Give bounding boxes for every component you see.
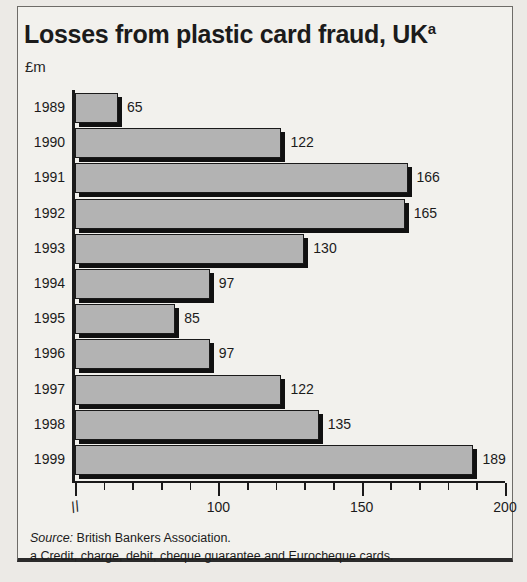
x-axis-minor-tick — [476, 483, 478, 490]
bar — [75, 199, 405, 229]
axis-break-icon: // — [68, 497, 82, 516]
x-axis-tick-label: 100 — [207, 499, 230, 515]
x-axis-minor-tick — [276, 483, 278, 490]
category-label: 1992 — [19, 205, 65, 221]
x-axis-minor-tick — [247, 483, 249, 490]
bar — [75, 234, 304, 264]
x-axis-major-tick — [362, 483, 364, 496]
x-axis-minor-tick — [132, 483, 134, 490]
x-axis-minor-tick — [161, 483, 163, 490]
category-label: 1993 — [19, 240, 65, 256]
bar-value-label: 85 — [184, 310, 200, 326]
footnote-a: a Credit, charge, debit, cheque guarante… — [30, 547, 393, 566]
x-axis-minor-tick — [304, 483, 306, 490]
bar — [75, 128, 281, 158]
bar-value-label: 122 — [290, 134, 313, 150]
bar-value-label: 97 — [219, 275, 235, 291]
bar-value-label: 65 — [127, 99, 143, 115]
plot-area: 1989651990122199116619921651993130199497… — [0, 0, 527, 582]
bar — [75, 410, 319, 440]
source-line: Source: British Bankers Association. — [30, 529, 393, 548]
chart-figure: Losses from plastic card fraud, UKa £m 1… — [0, 0, 527, 582]
x-axis-origin-tick — [75, 483, 77, 496]
x-axis-minor-tick — [448, 483, 450, 490]
bar-value-label: 97 — [219, 345, 235, 361]
bar — [75, 269, 210, 299]
x-axis-minor-tick — [190, 483, 192, 490]
category-label: 1989 — [19, 99, 65, 115]
x-axis-major-tick — [218, 483, 220, 496]
bar — [75, 163, 408, 193]
category-label: 1994 — [19, 275, 65, 291]
bar-value-label: 165 — [414, 205, 437, 221]
category-label: 1995 — [19, 310, 65, 326]
bar — [75, 304, 175, 334]
category-label: 1991 — [19, 169, 65, 185]
bar-value-label: 135 — [328, 416, 351, 432]
bar-value-label: 166 — [417, 169, 440, 185]
x-axis-minor-tick — [419, 483, 421, 490]
x-axis-tick-label: 200 — [493, 499, 516, 515]
category-label: 1997 — [19, 381, 65, 397]
bar — [75, 445, 473, 475]
bar — [75, 339, 210, 369]
bar — [75, 93, 118, 123]
bar-value-label: 189 — [482, 451, 505, 467]
category-label: 1998 — [19, 416, 65, 432]
category-label: 1990 — [19, 134, 65, 150]
x-axis-minor-tick — [390, 483, 392, 490]
x-axis-tick-label: 150 — [350, 499, 373, 515]
x-axis-line — [72, 481, 505, 483]
category-label: 1999 — [19, 451, 65, 467]
bar-value-label: 122 — [290, 381, 313, 397]
x-axis-major-tick — [505, 483, 507, 496]
source-label: Source: — [30, 531, 73, 545]
footnotes: Source: British Bankers Association. a C… — [30, 529, 393, 567]
source-value: British Bankers Association. — [77, 531, 231, 545]
x-axis-minor-tick — [333, 483, 335, 490]
x-axis-minor-tick — [104, 483, 106, 490]
bar — [75, 375, 281, 405]
bar-value-label: 130 — [313, 240, 336, 256]
category-label: 1996 — [19, 345, 65, 361]
